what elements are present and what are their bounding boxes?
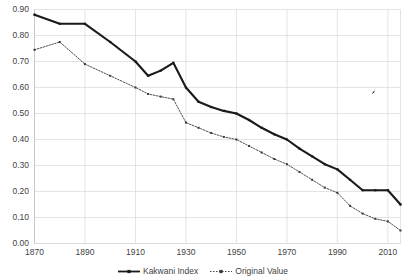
y-tick-label: 0.50 [3, 108, 29, 118]
y-tick-label: 0.30 [3, 160, 29, 170]
dotted-line-key-icon [210, 262, 232, 280]
line-chart: 0.000.100.200.300.400.500.600.700.800.90… [0, 0, 406, 280]
series-1 [33, 14, 401, 206]
legend-label: Kakwani Index [143, 266, 198, 276]
x-tick-label: 1930 [166, 247, 206, 257]
plot-area [0, 0, 406, 280]
legend-item-2: Original Value [210, 262, 288, 280]
legend-label: Original Value [235, 266, 288, 276]
y-tick-label: 0.80 [3, 30, 29, 40]
solid-line-key-icon [118, 262, 140, 280]
x-tick-label: 1970 [267, 247, 307, 257]
x-tick-label: 1950 [216, 247, 256, 257]
x-tick-label: 1890 [65, 247, 105, 257]
x-tick-label: 1870 [15, 247, 55, 257]
y-tick-label: 0.40 [3, 134, 29, 144]
series-2 [34, 41, 402, 232]
x-tick-label: 1990 [317, 247, 357, 257]
y-tick-label: 0.10 [3, 212, 29, 222]
legend-item-1: Kakwani Index [118, 262, 198, 280]
x-tick-label: 2010 [368, 247, 406, 257]
y-tick-label: 0.20 [3, 186, 29, 196]
x-tick-label: 1910 [115, 247, 155, 257]
chart-legend: Kakwani IndexOriginal Value [0, 262, 406, 280]
y-tick-label: 0.90 [3, 4, 29, 14]
y-tick-label: 0.70 [3, 56, 29, 66]
y-tick-label: 0.60 [3, 82, 29, 92]
gridlines [35, 10, 401, 244]
